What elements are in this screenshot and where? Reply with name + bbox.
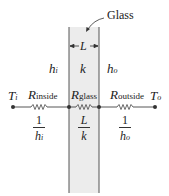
outside-convection-coefficient: ho [107,62,118,75]
glass-label: Glass [107,9,134,21]
node-slab-left [67,105,71,109]
inside-convection-coefficient: hi [49,62,58,75]
glass-conductivity-label: k [80,62,86,75]
resistor-inside-icon [31,104,47,110]
node-slab-right [97,105,101,109]
thickness-label: L [80,40,87,52]
node-inside-temp [11,105,15,109]
resistance-outside-label: Routside [110,88,144,101]
resistance-glass-label: Rglass [71,88,97,101]
resistance-inside-label: Rinside [28,88,57,101]
node-outside-temp [153,105,157,109]
resistance-glass-value: L k [77,114,91,142]
resistor-glass-icon [76,104,92,110]
inside-temperature-label: Ti [8,89,17,102]
resistor-outside-icon [117,104,133,110]
resistance-inside-value: 1 hi [32,114,46,142]
resistance-outside-value: 1 ho [118,114,132,142]
outside-temperature-label: To [150,89,161,102]
